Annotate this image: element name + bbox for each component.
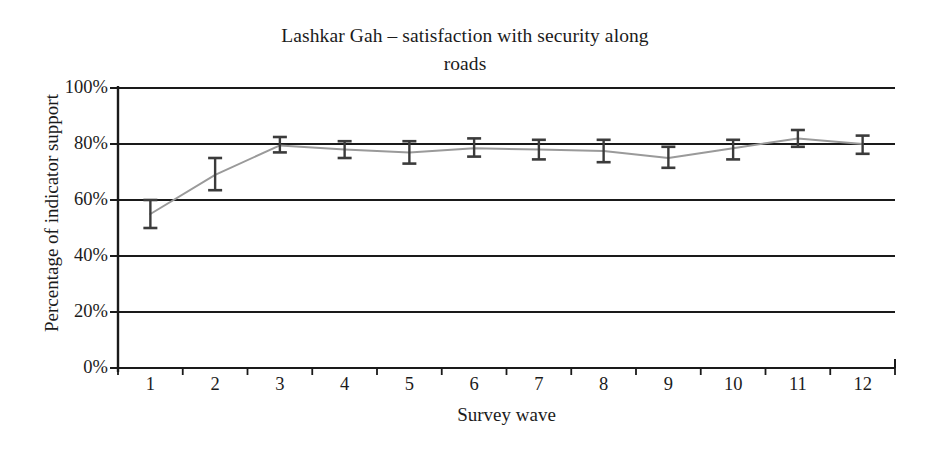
- series-polyline: [150, 138, 862, 214]
- data-line: [150, 138, 862, 214]
- x-tick-label-6: 6: [454, 374, 494, 395]
- x-tick-label-3: 3: [260, 374, 300, 395]
- error-bar-wave-1: [143, 200, 157, 228]
- x-tick-label-8: 8: [584, 374, 624, 395]
- chart-figure: Lashkar Gah – satisfaction with security…: [0, 0, 926, 456]
- x-tick-label-12: 12: [843, 374, 883, 395]
- x-tick-label-2: 2: [195, 374, 235, 395]
- x-tick-label-10: 10: [713, 374, 753, 395]
- x-tick-label-1: 1: [130, 374, 170, 395]
- gridlines-group: [118, 88, 895, 368]
- x-axis-title: Survey wave: [118, 404, 895, 426]
- x-tick-label-5: 5: [389, 374, 429, 395]
- x-tick-label-7: 7: [519, 374, 559, 395]
- x-tick-label-11: 11: [778, 374, 818, 395]
- error-bar-wave-2: [208, 158, 222, 190]
- x-tick-label-4: 4: [325, 374, 365, 395]
- x-tick-label-9: 9: [648, 374, 688, 395]
- axes-group: [110, 86, 895, 372]
